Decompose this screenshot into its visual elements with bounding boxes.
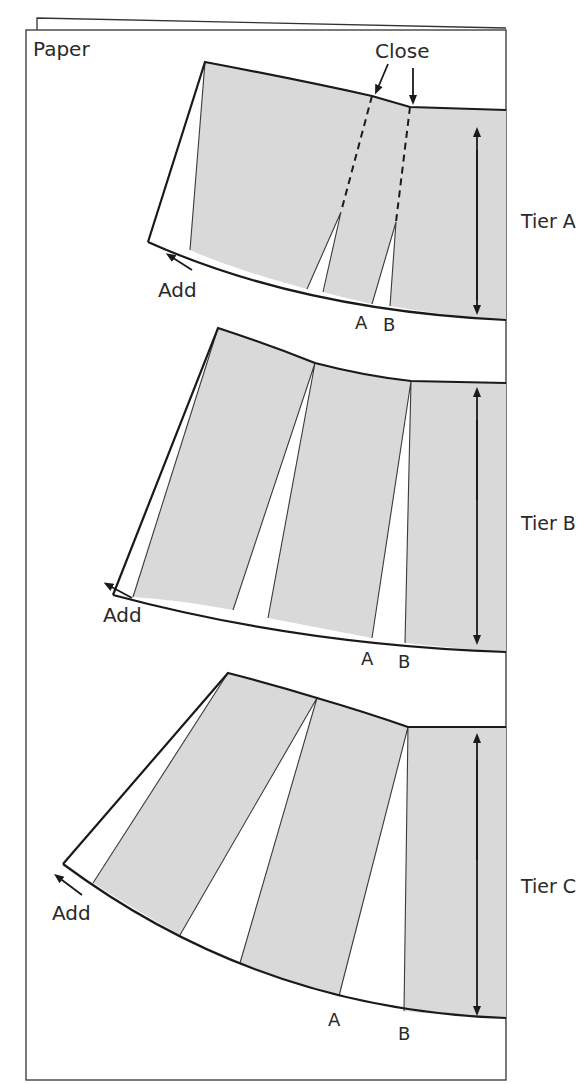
tier-c-point-a: A [328, 1009, 341, 1030]
tier-b-label: Tier B [520, 512, 576, 534]
tier-a-label: Tier A [520, 210, 576, 232]
tier-b-add-label: Add [103, 603, 142, 627]
pattern-diagram: Paper Close Add A B Tier A [0, 0, 584, 1084]
tier-c-point-b: B [398, 1023, 410, 1044]
tier-a-add-label: Add [158, 278, 197, 302]
close-label: Close [375, 39, 429, 63]
tier-b-point-a: A [361, 648, 374, 669]
tier-c-piece-right [404, 727, 506, 1018]
tier-a-point-a: A [355, 312, 368, 333]
tier-a-piece-right [390, 107, 506, 320]
paper-back-sheet [37, 18, 506, 30]
paper-label: Paper [33, 37, 90, 61]
tier-b-point-b: B [398, 651, 410, 672]
tier-b-piece-right [405, 381, 506, 652]
tier-c-label: Tier C [520, 875, 576, 897]
tier-c-add-label: Add [52, 901, 91, 925]
tier-a-point-b: B [383, 314, 395, 335]
